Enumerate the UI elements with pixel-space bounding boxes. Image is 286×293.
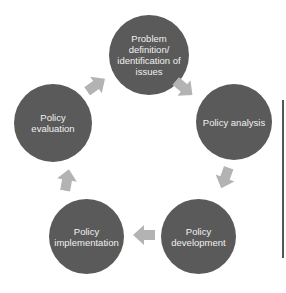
side-divider-line [282,100,284,258]
node-label: Policy analysis [203,117,265,128]
node-policy-evaluation: Policy evaluation [14,84,92,162]
node-label: Policy evaluation [20,112,86,134]
arrow-up-right-icon [81,70,110,99]
policy-cycle-diagram: Problem definition/ identification of is… [0,0,286,293]
arrow-up-icon [55,167,79,192]
node-label: Policy development [167,226,230,248]
node-label: Problem definition/ identification of is… [115,33,183,77]
node-policy-implementation: Policy implementation [49,199,124,274]
node-policy-development: Policy development [161,199,236,274]
arrow-down-left-icon [212,164,238,192]
node-label: Policy implementation [54,226,118,248]
node-policy-analysis: Policy analysis [196,84,272,160]
arrow-left-icon [133,225,155,245]
